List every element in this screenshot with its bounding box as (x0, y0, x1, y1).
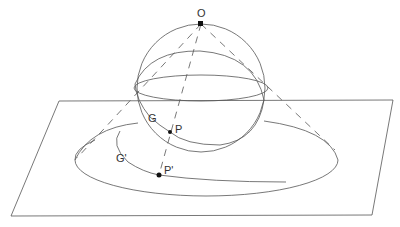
image-circle-on-plane (75, 140, 338, 196)
stereographic-projection-diagram: O P G P' G' (0, 0, 400, 227)
label-g: G (148, 112, 157, 124)
point-p-prime (157, 173, 162, 178)
image-circle-upper-right (264, 121, 338, 160)
sphere-outline (137, 24, 265, 152)
diagram-canvas: O P G P' G' (0, 0, 400, 227)
curve-g-prime (116, 131, 286, 182)
label-p: P (175, 123, 182, 135)
label-o: O (197, 7, 206, 19)
point-p (168, 130, 172, 134)
great-circle-g-upper (135, 51, 264, 100)
sphere-equator (134, 75, 268, 101)
label-g-prime: G' (116, 152, 127, 164)
pole-point-o (198, 21, 203, 26)
label-p-prime: P' (164, 164, 173, 176)
projection-plane (11, 100, 393, 216)
image-circle-upper-left (75, 123, 138, 160)
